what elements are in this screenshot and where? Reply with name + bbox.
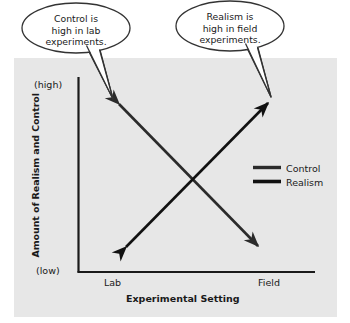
realism-callout-tail-outline: [246, 44, 272, 98]
x-axis-tick-lab: Lab: [104, 277, 121, 288]
control-callout-text: Control is high in lab experiments.: [28, 13, 124, 48]
legend-label-control: Control: [286, 163, 320, 174]
y-axis-tick-low: (low): [36, 265, 60, 276]
control-series-line: [119, 104, 258, 246]
realism-series-line: [126, 103, 268, 247]
x-axis-tick-field: Field: [258, 277, 280, 288]
realism-callout-text: Realism is high in field experiments.: [182, 11, 278, 46]
y-axis-title: Amount of Realism and Control: [30, 98, 41, 258]
x-axis-title: Experimental Setting: [126, 293, 240, 304]
figure-container: Control is high in lab experiments. Real…: [0, 0, 350, 323]
legend: [253, 168, 281, 182]
y-axis-tick-high: (high): [34, 79, 62, 90]
legend-label-realism: Realism: [286, 177, 323, 188]
